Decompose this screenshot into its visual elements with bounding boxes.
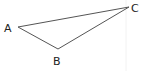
triangle-diagram: A B C bbox=[0, 0, 141, 71]
vertex-label-c: C bbox=[131, 2, 139, 15]
vertex-label-b: B bbox=[53, 55, 61, 68]
vertex-label-a: A bbox=[4, 22, 12, 35]
edge-ab bbox=[18, 27, 58, 49]
